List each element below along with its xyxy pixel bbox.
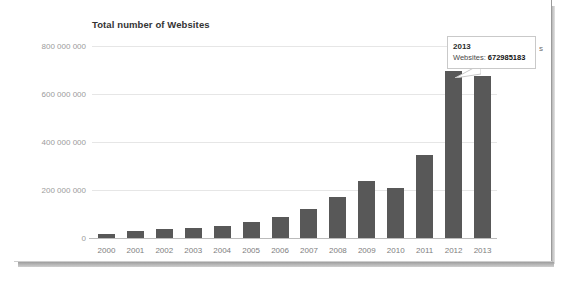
bar-2011[interactable] [416, 155, 433, 238]
data-point-tooltip: 2013 Websites:672985183 [447, 36, 536, 69]
screenshot-root: Total number of Websites 0200 000 000400… [0, 0, 584, 284]
y-axis-tick-label: 200 000 000 [42, 186, 87, 195]
y-axis-tick-label: 800 000 000 [42, 42, 87, 51]
websites-bar-chart[interactable]: Total number of Websites 0200 000 000400… [0, 0, 584, 284]
bar-2007[interactable] [300, 209, 317, 238]
bar-2002[interactable] [156, 229, 173, 238]
tooltip-series-label: Websites: [453, 53, 486, 62]
tooltip-title: 2013 [453, 41, 530, 52]
y-axis-tick-labels: 0200 000 000400 000 000600 000 000800 00… [22, 46, 86, 238]
tooltip-row: Websites:672985183 [453, 52, 530, 63]
x-axis-tick-label: 2013 [463, 246, 503, 255]
y-axis-tick-label: 0 [82, 234, 86, 243]
bar-2010[interactable] [387, 188, 404, 238]
bar-2012[interactable] [445, 71, 462, 238]
bar-2003[interactable] [185, 228, 202, 238]
bar-2008[interactable] [329, 197, 346, 238]
bar-2001[interactable] [127, 231, 144, 238]
y-axis-tick-label: 600 000 000 [42, 90, 87, 99]
y-axis-tick-label: 400 000 000 [42, 138, 87, 147]
tooltip-value: 672985183 [488, 53, 526, 62]
bar-2000[interactable] [98, 234, 115, 238]
bar-2005[interactable] [243, 222, 260, 238]
bar-2006[interactable] [272, 217, 289, 238]
chart-title: Total number of Websites [92, 19, 210, 30]
x-axis-line [89, 238, 497, 239]
bar-2013[interactable] [474, 76, 491, 238]
bar-2004[interactable] [214, 226, 231, 238]
clipped-legend-text: s [539, 44, 546, 53]
bar-series[interactable] [92, 46, 497, 238]
bar-2009[interactable] [358, 181, 375, 238]
